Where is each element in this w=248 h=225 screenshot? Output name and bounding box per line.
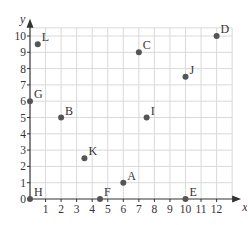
point-label-f: F bbox=[104, 185, 111, 199]
y-tick-label: 10 bbox=[15, 30, 27, 42]
x-tick-label: 8 bbox=[152, 203, 158, 215]
data-point-d bbox=[214, 33, 220, 39]
point-label-h: H bbox=[34, 185, 43, 199]
data-point-e bbox=[183, 196, 189, 202]
x-tick-label: 4 bbox=[89, 203, 95, 215]
data-point-a bbox=[120, 180, 126, 186]
x-tick-label: 11 bbox=[196, 203, 207, 215]
x-tick-label: 5 bbox=[105, 203, 111, 215]
data-point-l bbox=[35, 41, 41, 47]
data-point-h bbox=[27, 196, 33, 202]
data-point-f bbox=[97, 196, 103, 202]
coordinate-plane-chart: xy123456789101112012345678910 ABCDEFGHIJ… bbox=[0, 0, 247, 225]
y-axis-arrow-icon bbox=[27, 19, 34, 28]
y-tick-label: 6 bbox=[20, 95, 26, 107]
x-tick-label: 12 bbox=[211, 203, 223, 215]
point-label-c: C bbox=[143, 38, 151, 52]
data-point-i bbox=[144, 115, 150, 121]
y-tick-label: 9 bbox=[20, 46, 26, 58]
y-tick-label: 5 bbox=[20, 112, 26, 124]
y-tick-label: 2 bbox=[20, 160, 26, 172]
data-points: ABCDEFGHIJKL bbox=[27, 22, 230, 202]
point-label-l: L bbox=[42, 30, 49, 44]
x-tick-label: 1 bbox=[43, 203, 49, 215]
point-label-e: E bbox=[190, 185, 197, 199]
x-tick-label: 2 bbox=[58, 203, 64, 215]
x-tick-label: 7 bbox=[136, 203, 142, 215]
y-tick-label: 3 bbox=[20, 144, 26, 156]
point-label-b: B bbox=[65, 104, 73, 118]
data-point-j bbox=[183, 74, 189, 80]
y-tick-label: 8 bbox=[20, 63, 26, 75]
x-axis-label: x bbox=[241, 200, 247, 214]
point-label-k: K bbox=[88, 144, 97, 158]
tick-labels: xy123456789101112012345678910 bbox=[15, 12, 248, 215]
data-point-k bbox=[81, 155, 87, 161]
x-tick-label: 9 bbox=[167, 203, 173, 215]
x-tick-label: 3 bbox=[74, 203, 80, 215]
data-point-b bbox=[58, 115, 64, 121]
x-tick-label: 6 bbox=[120, 203, 126, 215]
point-label-d: D bbox=[221, 22, 230, 36]
point-label-i: I bbox=[151, 104, 155, 118]
chart-svg: xy123456789101112012345678910 ABCDEFGHIJ… bbox=[0, 0, 247, 225]
x-axis-arrow-icon bbox=[232, 196, 241, 203]
data-point-g bbox=[27, 98, 33, 104]
x-tick-label: 10 bbox=[180, 203, 192, 215]
y-tick-label: 7 bbox=[20, 79, 26, 91]
point-label-g: G bbox=[34, 87, 43, 101]
point-label-a: A bbox=[127, 169, 136, 183]
y-tick-label: 4 bbox=[20, 128, 26, 140]
y-tick-label: 1 bbox=[20, 177, 26, 189]
y-axis-label: y bbox=[19, 12, 26, 26]
data-point-c bbox=[136, 49, 142, 55]
point-label-j: J bbox=[190, 63, 195, 77]
y-tick-label: 0 bbox=[20, 193, 26, 205]
